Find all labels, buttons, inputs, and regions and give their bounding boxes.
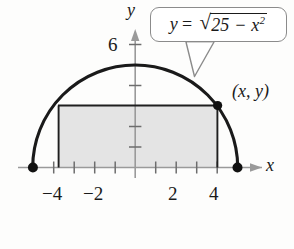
radical-group: √ 25 − x2 — [199, 13, 267, 36]
equation-equals: = — [182, 14, 192, 35]
point-xy-dot — [213, 101, 222, 110]
x-tick-label-2: 2 — [168, 184, 178, 203]
x-tick-label-neg4: −4 — [42, 184, 62, 203]
x-axis-arrow-icon — [250, 163, 262, 172]
radicand: 25 − x2 — [210, 13, 267, 36]
y-axis-label: y — [127, 1, 135, 19]
y-axis-arrow-icon — [131, 29, 139, 41]
left-endpoint-dot — [28, 163, 38, 173]
x-tick-label-4: 4 — [209, 184, 219, 203]
right-endpoint-dot — [233, 163, 243, 173]
x-tick-label-neg2: −2 — [83, 184, 103, 203]
equation-callout: y = √ 25 − x2 — [150, 7, 287, 42]
shaded-rectangle — [58, 106, 218, 168]
equation-lhs: y — [170, 14, 178, 35]
radicand-exponent: 2 — [259, 14, 265, 26]
callout-pointer — [186, 42, 214, 77]
point-xy-label: (x, y) — [232, 82, 269, 100]
y-tick-label-6: 6 — [108, 35, 118, 54]
radicand-expression: 25 − x — [211, 15, 259, 35]
semicircle-figure: y = √ 25 − x2 y x 6 −4 −2 2 4 (x, y) — [0, 0, 294, 249]
x-axis-label: x — [266, 156, 274, 174]
equation-text: y = √ 25 − x2 — [170, 13, 267, 36]
